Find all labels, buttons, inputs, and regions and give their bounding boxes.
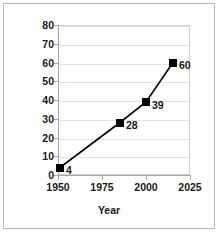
y-tick-label-60-wrap: 60: [26, 58, 54, 68]
y-tick-label-30-wrap: 30: [26, 114, 54, 124]
data-point-label-28: 28: [126, 120, 138, 130]
y-tick-label-80-wrap: 80: [26, 20, 54, 30]
y-tick-label-70: 70: [30, 39, 54, 49]
y-tick-label-0-wrap: 0: [26, 170, 54, 180]
x-tick-label-2025: 2025: [170, 181, 210, 193]
gridline-20: [59, 139, 189, 140]
data-point-marker-2015: [169, 59, 177, 67]
y-tick-mark-50: [54, 81, 58, 82]
y-tick-label-50: 50: [30, 76, 54, 86]
data-point-label-60: 60: [179, 60, 191, 70]
x-tick-mark-1950: [58, 176, 59, 180]
y-tick-label-60: 60: [30, 58, 54, 68]
x-tick-label-1950: 1950: [38, 181, 78, 193]
x-tick-label-1975: 1975: [82, 181, 122, 193]
x-tick-label-2000: 2000: [126, 181, 166, 193]
y-tick-mark-70: [54, 44, 58, 45]
data-point-label-39: 39: [152, 100, 164, 110]
x-axis-title: Year: [0, 204, 218, 216]
y-tick-label-40: 40: [30, 95, 54, 105]
x-tick-mark-2000: [146, 176, 147, 180]
y-tick-mark-60: [54, 63, 58, 64]
y-tick-mark-40: [54, 100, 58, 101]
gridline-10: [59, 157, 189, 158]
y-tick-mark-30: [54, 119, 58, 120]
gridline-70: [59, 45, 189, 46]
data-point-label-4: 4: [66, 165, 72, 175]
y-axis-line: [58, 25, 59, 176]
gridline-30: [59, 120, 189, 121]
x-tick-mark-2025: [190, 176, 191, 180]
y-tick-mark-10: [54, 156, 58, 157]
plot-area: [58, 25, 190, 175]
y-tick-label-0: 0: [30, 170, 54, 180]
y-tick-label-10-wrap: 10: [26, 151, 54, 161]
y-tick-label-20: 20: [30, 133, 54, 143]
y-tick-mark-80: [54, 25, 58, 26]
x-tick-mark-1975: [102, 176, 103, 180]
gridline-50: [59, 82, 189, 83]
y-tick-label-20-wrap: 20: [26, 133, 54, 143]
y-tick-label-80: 80: [30, 20, 54, 30]
gridline-80: [59, 26, 189, 27]
y-tick-label-50-wrap: 50: [26, 76, 54, 86]
data-point-marker-1950: [56, 164, 64, 172]
chart-screenshot: 80 70 60 50 40 30 20 10 0 1950 1975 2000…: [0, 0, 218, 232]
y-tick-label-10: 10: [30, 151, 54, 161]
data-point-marker-1985: [116, 119, 124, 127]
y-tick-label-30: 30: [30, 114, 54, 124]
y-tick-label-70-wrap: 70: [26, 39, 54, 49]
x-axis-line: [58, 175, 191, 176]
data-point-marker-2000: [142, 98, 150, 106]
y-tick-mark-20: [54, 138, 58, 139]
y-tick-label-40-wrap: 40: [26, 95, 54, 105]
gridline-40: [59, 101, 189, 102]
